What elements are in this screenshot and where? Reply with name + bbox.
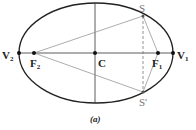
label-V1: V1 bbox=[177, 49, 189, 63]
caption: (a) bbox=[90, 114, 101, 124]
point-F2 bbox=[32, 51, 36, 55]
point-C bbox=[93, 51, 97, 55]
line-F2-Sprime bbox=[34, 53, 143, 92]
label-S: S bbox=[139, 2, 145, 14]
label-S-prime: S' bbox=[139, 96, 147, 108]
label-F2: F2 bbox=[30, 57, 41, 71]
point-S bbox=[142, 15, 145, 18]
point-F1 bbox=[156, 51, 160, 55]
ellipse-diagram: V2 F2 C F1 V1 S S' (a) bbox=[0, 0, 196, 130]
point-S-prime bbox=[142, 91, 145, 94]
label-F1: F1 bbox=[152, 57, 163, 71]
label-C: C bbox=[98, 57, 106, 69]
point-V1 bbox=[171, 51, 175, 55]
line-F2-S bbox=[34, 16, 143, 53]
point-V2 bbox=[17, 51, 21, 55]
label-V2: V2 bbox=[2, 49, 14, 63]
